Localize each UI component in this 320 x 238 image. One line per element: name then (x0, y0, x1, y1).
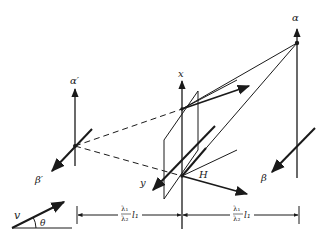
dim-left-suffix: l₁ (132, 210, 139, 220)
right-axis-group (182, 29, 315, 178)
x-axis-label: x (178, 68, 184, 79)
diag-line-upper (182, 150, 237, 176)
alpha-label: α (292, 12, 299, 23)
H-arrow (182, 176, 247, 194)
dim-label-left: λ₁ λ₂ l₁ (121, 205, 139, 223)
beta-prime-label: β′ (34, 174, 44, 185)
beta-label: β (260, 172, 267, 183)
ray-to-upper-point (182, 43, 297, 109)
y-axis-label: y (139, 177, 146, 188)
H-label: H (198, 169, 208, 180)
dim-left-den: λ₂ (121, 215, 128, 223)
theta-label: θ (40, 218, 46, 228)
dimension-line (77, 206, 299, 224)
beta-prime-arrow (52, 129, 92, 171)
velocity-indicator: v θ (12, 202, 72, 228)
dashed-ray-upper (75, 109, 182, 146)
beta-arrow (272, 128, 315, 172)
plane-outline (164, 91, 198, 199)
center-plane (164, 91, 198, 199)
v-label: v (14, 209, 21, 222)
diagram-canvas: v θ λ₁ λ₂ l₁ λ₁ λ₂ l₁ α′ β′ x y H α β (0, 0, 320, 238)
y-axis-arrow (153, 126, 215, 190)
dashed-rays (75, 109, 182, 176)
dim-right-suffix: l₁ (244, 210, 251, 220)
dashed-ray-lower (75, 146, 182, 176)
ray-to-lower-point (182, 43, 297, 176)
theta-arc (33, 217, 36, 228)
dim-right-den: λ₂ (233, 215, 240, 223)
dim-label-right: λ₁ λ₂ l₁ (233, 205, 251, 223)
left-axis-group (52, 89, 92, 171)
dim-left-num: λ₁ (121, 205, 128, 213)
dim-right-num: λ₁ (233, 205, 240, 213)
alpha-prime-label: α′ (70, 75, 80, 86)
